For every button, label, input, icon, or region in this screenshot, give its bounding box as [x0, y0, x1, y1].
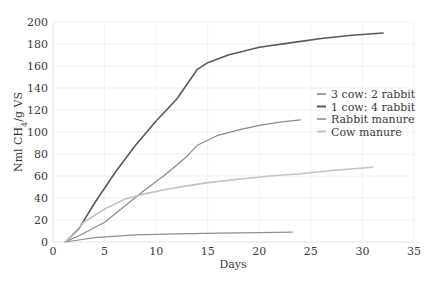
y-tick-labels: 020406080100120140160180200: [27, 16, 48, 249]
y-tick-label: 140: [27, 82, 48, 95]
legend: 3 cow: 2 rabbit1 cow: 4 rabbitRabbit man…: [317, 88, 416, 139]
y-tick-label: 160: [27, 60, 48, 73]
x-tick-label: 10: [149, 245, 163, 258]
legend-label: 1 cow: 4 rabbit: [331, 101, 416, 114]
chart: 020406080100120140160180200 051015202530…: [0, 0, 437, 282]
y-tick-label: 40: [34, 192, 48, 205]
y-tick-label: 100: [27, 126, 48, 139]
legend-label: Rabbit manure: [331, 113, 415, 126]
x-tick-label: 5: [101, 245, 108, 258]
x-tick-label: 15: [201, 245, 215, 258]
y-tick-label: 60: [34, 170, 48, 183]
y-tick-label: 180: [27, 38, 48, 51]
legend-label: Cow manure: [331, 126, 402, 139]
x-tick-label: 35: [407, 245, 421, 258]
y-tick-label: 0: [41, 236, 48, 249]
x-tick-labels: 05101520253035: [50, 245, 422, 258]
y-tick-label: 200: [27, 16, 48, 29]
series-line: [65, 120, 300, 242]
y-tick-label: 120: [27, 104, 48, 117]
series-line: [65, 232, 292, 242]
y-tick-label: 20: [34, 214, 48, 227]
y-tick-label: 80: [34, 148, 48, 161]
x-tick-label: 0: [50, 245, 57, 258]
x-tick-label: 20: [252, 245, 266, 258]
x-axis-title: Days: [219, 258, 247, 271]
x-tick-label: 25: [304, 245, 318, 258]
x-tick-label: 30: [355, 245, 369, 258]
legend-label: 3 cow: 2 rabbit: [331, 88, 416, 101]
